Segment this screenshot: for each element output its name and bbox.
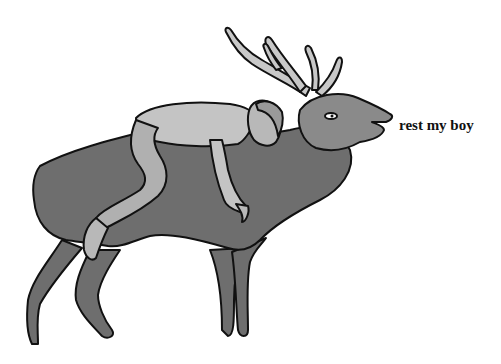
deer-front-legs (210, 238, 266, 336)
deer-antlers (225, 28, 342, 96)
deer-hind-legs (27, 240, 120, 344)
deer-head (299, 94, 392, 150)
caption-text: rest my boy (399, 117, 474, 134)
meme-illustration: rest my boy (0, 0, 501, 364)
deer-and-man-drawing (0, 0, 501, 364)
